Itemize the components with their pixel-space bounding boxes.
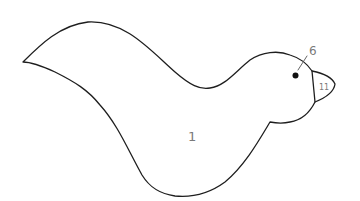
region-label-eye: 6 <box>309 44 317 58</box>
region-label-beak: 11 <box>319 83 329 92</box>
bird-body-outline <box>23 22 315 197</box>
bird-drawing: 1 6 11 <box>0 0 360 201</box>
bird-eye <box>293 73 299 79</box>
region-label-body: 1 <box>188 129 196 144</box>
